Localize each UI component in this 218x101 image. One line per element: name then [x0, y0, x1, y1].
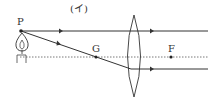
point-g	[94, 55, 97, 58]
lens-diagram	[0, 0, 218, 101]
candle-icon	[16, 33, 28, 63]
arrow-icon	[150, 29, 154, 34]
convex-lens	[128, 15, 141, 97]
arrow-icon	[59, 29, 63, 34]
point-p	[19, 29, 23, 33]
point-f	[169, 55, 172, 58]
arrow-icon	[150, 67, 154, 72]
label-f: F	[168, 44, 175, 54]
label-p: P	[17, 17, 24, 27]
diagram-title: (イ)	[70, 4, 88, 14]
label-g: G	[92, 44, 100, 54]
ray-through-g	[21, 31, 131, 69]
